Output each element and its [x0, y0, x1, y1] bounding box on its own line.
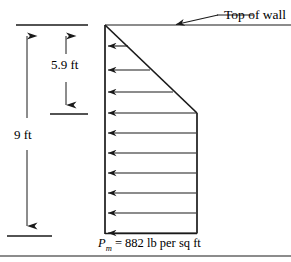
pressure-units: lb per sq ft [147, 236, 201, 250]
pressure-subscript: m [106, 243, 112, 253]
pressure-arrows [108, 46, 196, 233]
diagram-canvas [0, 0, 291, 262]
total-height-label: 9 ft [14, 128, 32, 141]
pressure-equals: = [115, 236, 122, 250]
pressure-diagram-outline [105, 25, 197, 234]
dimension-upper-height [50, 36, 88, 114]
pressure-value-label: Pm = 882 lb per sq ft [98, 237, 201, 252]
pressure-value: 882 [125, 236, 144, 250]
upper-height-label: 5.9 ft [51, 58, 78, 71]
pressure-symbol: P [98, 236, 106, 250]
top-of-wall-label: Top of wall [224, 8, 286, 22]
pressure-diagram-figure: Top of wall 5.9 ft 9 ft Pm = 882 lb per … [0, 0, 291, 262]
